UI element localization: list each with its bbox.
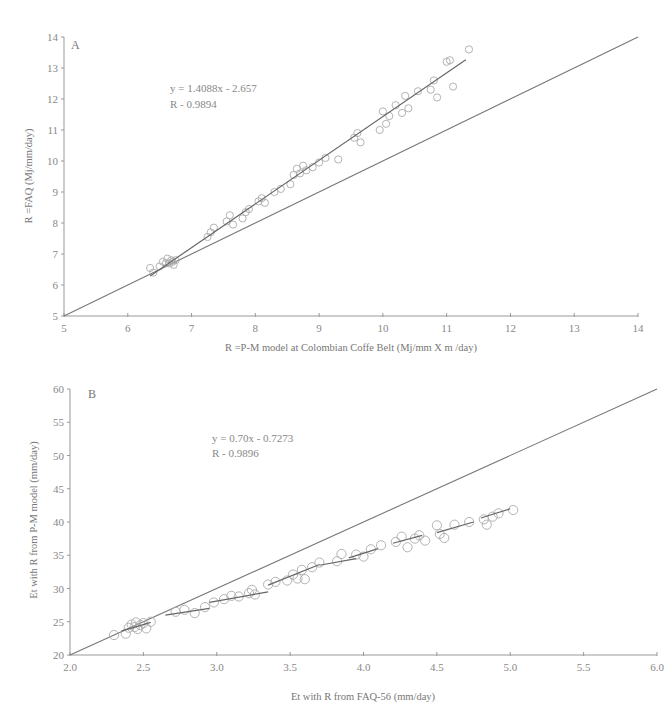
panel-b-x-tick-label: 5.0 — [503, 661, 517, 673]
panel-b-equation: y = 0.70x - 0.7273 — [212, 432, 294, 444]
panel-b-x-tick-label: 2.5 — [137, 661, 151, 673]
panel-a-y-tick-label: 9 — [53, 186, 59, 198]
panel-a-x-tick-label: 8 — [253, 322, 259, 334]
panel-a-y-tick-label: 14 — [47, 31, 59, 43]
panel-a-data-point — [376, 126, 383, 133]
panel-a-data-point — [379, 108, 386, 115]
panel-b-y-tick-label: 60 — [53, 383, 65, 395]
panel-a-x-tick-label: 12 — [505, 322, 516, 334]
panel-a-x-axis-title: R =P-M model at Colombian Coffe Belt (Mj… — [225, 342, 477, 354]
panel-b-data-point — [337, 549, 346, 558]
panel-b-regression-segment — [437, 522, 474, 533]
panel-b-chart: B y = 0.70x - 0.7273 R - 0.9896 Et with … — [28, 383, 664, 703]
panel-b-x-tick-label: 4.5 — [430, 661, 444, 673]
panel-a-x-tick-label: 9 — [316, 322, 322, 334]
panel-a-x-tick-label: 14 — [633, 322, 645, 334]
panel-b-x-tick-label: 4.0 — [357, 661, 371, 673]
panel-a-data-point — [357, 139, 364, 146]
panel-a-data-point — [335, 156, 342, 163]
panel-a-data-point — [405, 105, 412, 112]
panel-a-y-tick-label: 10 — [47, 155, 59, 167]
panel-a-y-axis-title: R =FAQ (Mj/mm/day) — [23, 128, 35, 223]
panel-b-x-tick-label: 2.0 — [63, 661, 77, 673]
panel-b-x-axis-title: Et with R from FAQ-56 (mm/day) — [291, 691, 436, 703]
figure: A y = 1.4088x - 2.657 R - 0.9894 R =P-M … — [0, 0, 669, 721]
panel-a-data-point — [398, 109, 405, 116]
panel-b-regression-segment — [319, 559, 356, 566]
panel-b-data-point — [171, 607, 180, 616]
panel-b-data-point — [421, 536, 430, 545]
panel-a-data-point — [226, 212, 233, 219]
panel-b-y-tick-label: 55 — [53, 416, 65, 428]
panel-b-x-tick-label: 3.0 — [210, 661, 224, 673]
panel-a-data-point — [465, 46, 472, 53]
panel-a-y-tick-label: 13 — [47, 62, 59, 74]
panel-b-data-point — [432, 521, 441, 530]
panel-a-equation: y = 1.4088x - 2.657 — [170, 82, 257, 94]
panel-b-regression-segment — [268, 565, 319, 586]
panel-a-y-tick-label: 6 — [53, 279, 59, 291]
panel-a-data-point — [382, 120, 389, 127]
panel-b-data-point — [200, 603, 209, 612]
panel-a-y-tick-label: 8 — [53, 217, 59, 229]
panel-b-data-point — [482, 520, 491, 529]
panel-b-y-tick-label: 20 — [53, 649, 65, 661]
panel-a-x-tick-label: 6 — [125, 322, 131, 334]
panel-b-y-tick-label: 45 — [53, 483, 65, 495]
panel-a-data-point — [402, 92, 409, 99]
panel-b-y-axis-title: Et with R from P-M model (mm/day) — [28, 441, 40, 599]
panel-b-y-tick-label: 35 — [53, 549, 65, 561]
panel-b-x-tick-label: 3.5 — [283, 661, 297, 673]
panel-a-x-tick-label: 10 — [377, 322, 389, 334]
panel-b-x-tick-label: 5.5 — [577, 661, 591, 673]
panel-a-data-point — [434, 94, 441, 101]
panel-b-one-to-one-line — [70, 389, 657, 655]
panel-b-label: B — [88, 387, 96, 401]
panel-a-x-tick-label: 11 — [441, 322, 452, 334]
panel-a-data-point — [427, 86, 434, 93]
panel-a-x-tick-label: 5 — [61, 322, 67, 334]
panel-a-x-tick-label: 7 — [189, 322, 195, 334]
panel-a-x-tick-label: 13 — [569, 322, 581, 334]
panel-b-data-point — [403, 543, 412, 552]
panel-a-label: A — [71, 38, 80, 52]
panel-a-chart: A y = 1.4088x - 2.657 R - 0.9894 R =P-M … — [23, 31, 644, 354]
panel-a-data-point — [229, 221, 236, 228]
panel-b-r2: R - 0.9896 — [212, 447, 259, 459]
panel-a-y-tick-label: 5 — [53, 310, 59, 322]
panel-a-y-tick-label: 7 — [53, 248, 59, 260]
panel-b-data-point — [509, 505, 518, 514]
panel-a-y-tick-label: 11 — [47, 124, 58, 136]
panel-b-y-tick-label: 25 — [53, 616, 65, 628]
panel-a-r2: R - 0.9894 — [170, 98, 217, 110]
panel-b-x-tick-label: 6.0 — [650, 661, 664, 673]
panel-b-y-tick-label: 40 — [53, 516, 65, 528]
panel-a-data-point — [449, 83, 456, 90]
panel-a-y-tick-label: 12 — [47, 93, 58, 105]
panel-b-y-tick-label: 30 — [53, 583, 65, 595]
panel-b-y-tick-label: 50 — [53, 450, 65, 462]
